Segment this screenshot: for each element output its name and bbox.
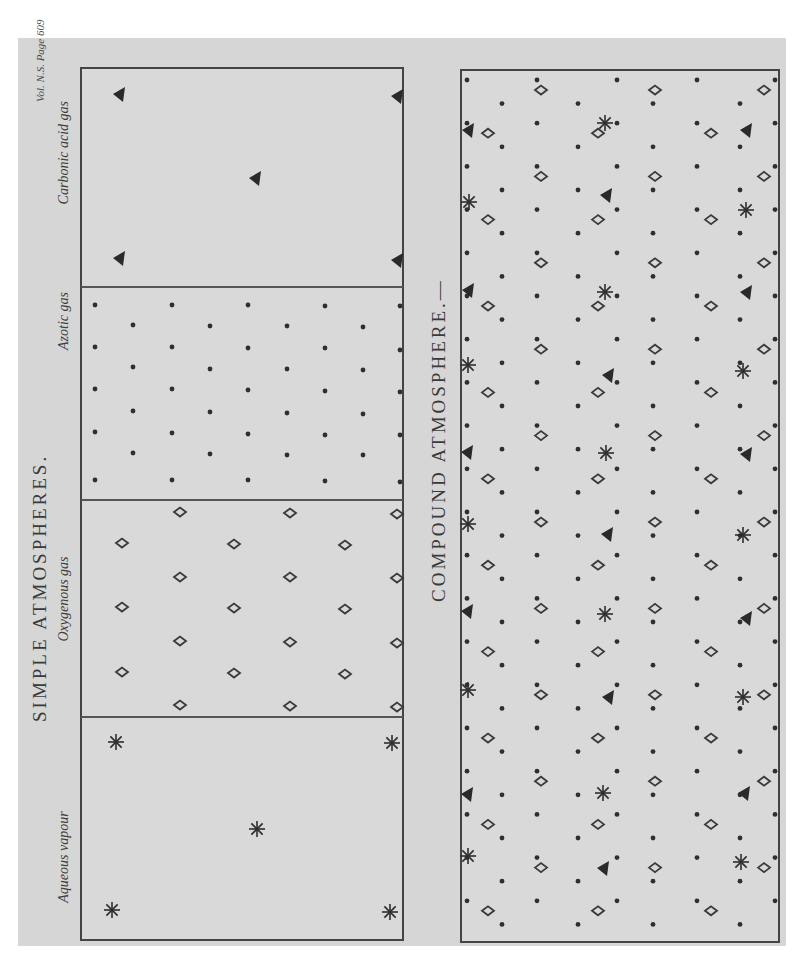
dot-glyph bbox=[695, 596, 700, 601]
star-glyph bbox=[597, 284, 613, 300]
reference-text: Vol. N.S. Page 609 bbox=[34, 19, 46, 102]
dot-glyph bbox=[398, 304, 403, 309]
dot-glyph bbox=[500, 360, 505, 365]
dot-glyph bbox=[535, 855, 540, 860]
dot-glyph bbox=[773, 78, 778, 83]
dot-glyph bbox=[651, 663, 656, 668]
dot-glyph bbox=[651, 231, 656, 236]
dot-glyph bbox=[535, 337, 540, 342]
dot-glyph bbox=[93, 345, 98, 350]
dot-glyph bbox=[738, 317, 743, 322]
dot-glyph bbox=[465, 466, 470, 471]
dot-glyph bbox=[773, 898, 778, 903]
dot-glyph bbox=[576, 274, 581, 279]
dot-glyph bbox=[323, 433, 328, 438]
dot-glyph bbox=[615, 769, 620, 774]
section-label-text: Azotic gas bbox=[56, 292, 71, 351]
dot-glyph bbox=[738, 360, 743, 365]
dot-glyph bbox=[651, 188, 656, 193]
section-label-carbonic: Carbonic acid gas bbox=[56, 100, 71, 204]
dot-glyph bbox=[500, 620, 505, 625]
dot-glyph bbox=[738, 274, 743, 279]
dot-glyph bbox=[695, 553, 700, 558]
dot-glyph bbox=[535, 510, 540, 515]
dot-glyph bbox=[576, 447, 581, 452]
dot-glyph bbox=[131, 409, 136, 414]
dot-glyph bbox=[615, 682, 620, 687]
dot-glyph bbox=[535, 294, 540, 299]
dot-glyph bbox=[695, 78, 700, 83]
dot-glyph bbox=[651, 749, 656, 754]
dot-glyph bbox=[170, 303, 175, 308]
dot-glyph bbox=[695, 121, 700, 126]
star-glyph bbox=[382, 904, 398, 920]
dot-glyph bbox=[465, 726, 470, 731]
dot-glyph bbox=[246, 303, 251, 308]
dot-glyph bbox=[398, 390, 403, 395]
simple-atmospheres-title: SIMPLE ATMOSPHERES. bbox=[29, 454, 50, 722]
dot-glyph bbox=[615, 639, 620, 644]
dot-glyph bbox=[465, 596, 470, 601]
dot-glyph bbox=[738, 922, 743, 927]
compound-atmosphere-panel bbox=[460, 70, 779, 942]
dot-glyph bbox=[285, 324, 290, 329]
dot-glyph bbox=[246, 346, 251, 351]
dot-glyph bbox=[738, 620, 743, 625]
dot-glyph bbox=[285, 367, 290, 372]
dot-glyph bbox=[738, 101, 743, 106]
dot-glyph bbox=[738, 490, 743, 495]
dot-glyph bbox=[398, 480, 403, 485]
dot-glyph bbox=[576, 663, 581, 668]
dot-glyph bbox=[651, 836, 656, 841]
dot-glyph bbox=[773, 510, 778, 515]
dot-glyph bbox=[465, 423, 470, 428]
dot-glyph bbox=[615, 510, 620, 515]
dot-glyph bbox=[131, 323, 136, 328]
dot-glyph bbox=[465, 78, 470, 83]
dot-glyph bbox=[651, 101, 656, 106]
dot-glyph bbox=[615, 294, 620, 299]
dot-glyph bbox=[773, 682, 778, 687]
star-glyph bbox=[104, 902, 120, 918]
dot-glyph bbox=[323, 304, 328, 309]
dot-glyph bbox=[535, 207, 540, 212]
dot-glyph bbox=[500, 231, 505, 236]
dot-glyph bbox=[773, 121, 778, 126]
dot-glyph bbox=[535, 466, 540, 471]
dot-glyph bbox=[93, 478, 98, 483]
dot-glyph bbox=[773, 423, 778, 428]
dot-glyph bbox=[576, 144, 581, 149]
dot-glyph bbox=[170, 478, 175, 483]
dot-glyph bbox=[500, 576, 505, 581]
dot-glyph bbox=[695, 423, 700, 428]
dot-glyph bbox=[773, 207, 778, 212]
dot-glyph bbox=[615, 207, 620, 212]
dot-glyph bbox=[500, 274, 505, 279]
dot-glyph bbox=[398, 433, 403, 438]
dot-glyph bbox=[500, 317, 505, 322]
dot-glyph bbox=[208, 324, 213, 329]
dot-glyph bbox=[615, 121, 620, 126]
dot-glyph bbox=[535, 726, 540, 731]
dot-glyph bbox=[500, 663, 505, 668]
dot-glyph bbox=[500, 836, 505, 841]
dot-glyph bbox=[576, 576, 581, 581]
dot-glyph bbox=[576, 490, 581, 495]
dot-glyph bbox=[615, 250, 620, 255]
star-glyph bbox=[249, 821, 265, 837]
dot-glyph bbox=[576, 231, 581, 236]
dot-glyph bbox=[500, 490, 505, 495]
dot-glyph bbox=[615, 337, 620, 342]
dot-glyph bbox=[323, 389, 328, 394]
star-glyph bbox=[735, 527, 751, 543]
dot-glyph bbox=[773, 855, 778, 860]
dot-glyph bbox=[651, 533, 656, 538]
dot-glyph bbox=[465, 639, 470, 644]
dot-glyph bbox=[576, 749, 581, 754]
section-label-aqueous: Aqueous vapour bbox=[56, 811, 71, 904]
dot-glyph bbox=[500, 792, 505, 797]
dot-glyph bbox=[773, 812, 778, 817]
dot-glyph bbox=[615, 855, 620, 860]
star-glyph bbox=[460, 357, 476, 373]
dot-glyph bbox=[615, 898, 620, 903]
